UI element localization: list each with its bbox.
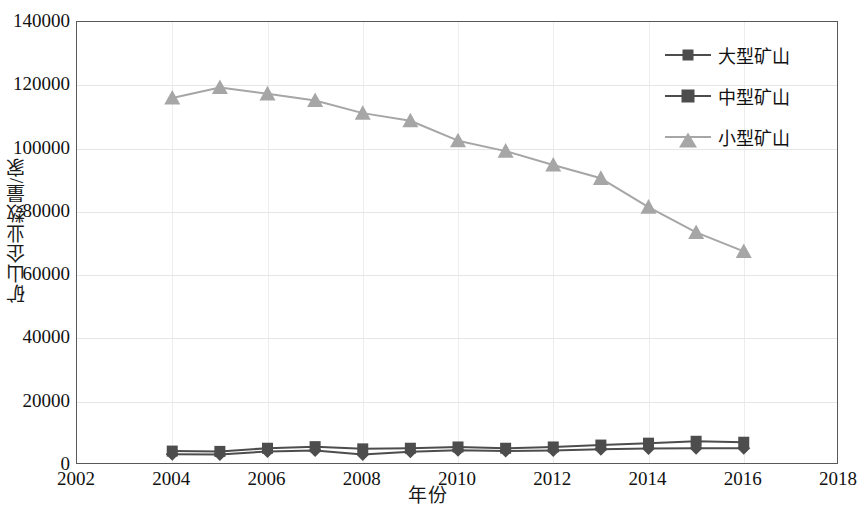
legend-marker-triangle-icon xyxy=(665,129,711,145)
legend-marker-square-icon xyxy=(665,88,711,104)
series-line xyxy=(172,88,744,252)
legend-label: 小型矿山 xyxy=(718,124,790,150)
data-point-marker xyxy=(453,441,464,452)
x-axis-title: 年份 xyxy=(0,480,856,506)
data-point-marker xyxy=(167,446,178,457)
legend-item-2[interactable]: 中型矿山 xyxy=(665,83,790,109)
data-point-marker xyxy=(262,443,273,454)
data-point-marker xyxy=(310,441,321,452)
data-point-marker xyxy=(214,446,225,457)
y-tick-label: 80000 xyxy=(0,200,76,222)
legend-label: 中型矿山 xyxy=(718,83,790,109)
data-point-marker xyxy=(595,440,606,451)
y-axis-tick-labels: 020000400006000080000100000120000140000 xyxy=(0,0,76,506)
y-tick-label: 120000 xyxy=(0,73,76,95)
y-tick-label: 140000 xyxy=(0,10,76,32)
series-triangle xyxy=(164,80,752,258)
data-point-marker xyxy=(641,199,657,214)
data-point-marker xyxy=(548,441,559,452)
data-point-marker xyxy=(212,80,228,95)
data-point-marker xyxy=(450,133,466,148)
legend-label: 大型矿山 xyxy=(718,42,790,68)
data-point-marker xyxy=(691,436,702,447)
data-point-marker xyxy=(643,438,654,449)
y-tick-label: 40000 xyxy=(0,326,76,348)
legend-marker-diamond-icon xyxy=(665,47,711,63)
y-tick-label: 60000 xyxy=(0,263,76,285)
data-point-marker xyxy=(736,243,752,258)
y-tick-label: 20000 xyxy=(0,390,76,412)
data-point-marker xyxy=(500,443,511,454)
data-point-marker xyxy=(688,224,704,239)
x-axis-title-text: 年份 xyxy=(408,485,448,506)
chart-legend: 大型矿山中型矿山小型矿山 xyxy=(665,42,790,150)
y-tick-label: 100000 xyxy=(0,137,76,159)
data-point-marker xyxy=(738,437,749,448)
legend-item-1[interactable]: 大型矿山 xyxy=(665,42,790,68)
legend-item-3[interactable]: 小型矿山 xyxy=(665,124,790,150)
data-point-marker xyxy=(405,443,416,454)
data-point-marker xyxy=(357,443,368,454)
